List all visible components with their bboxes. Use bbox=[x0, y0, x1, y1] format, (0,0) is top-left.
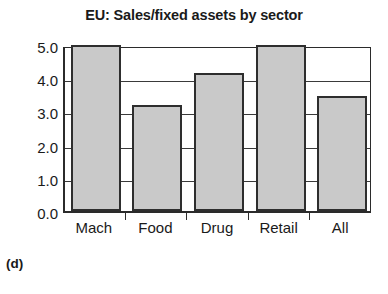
figure-caption: (d) bbox=[6, 256, 23, 271]
bar-series bbox=[65, 48, 370, 211]
x-tick-label: Drug bbox=[186, 219, 248, 236]
bar bbox=[256, 45, 306, 211]
chart-title: EU: Sales/fixed assets by sector bbox=[0, 7, 388, 23]
y-axis-tick-labels: 0.01.02.03.04.05.0 bbox=[0, 47, 58, 213]
x-tick-label: All bbox=[309, 219, 371, 236]
y-tick-label: 4.0 bbox=[2, 73, 58, 88]
x-tick-label: Mach bbox=[63, 219, 125, 236]
bar bbox=[194, 73, 244, 211]
bar bbox=[71, 45, 121, 211]
plot-area bbox=[63, 47, 371, 213]
y-tick-label: 0.0 bbox=[2, 206, 58, 221]
x-axis-tick-labels: MachFoodDrugRetailAll bbox=[63, 219, 371, 243]
x-tick-label: Food bbox=[125, 219, 187, 236]
y-tick-label: 5.0 bbox=[2, 40, 58, 55]
figure-panel: EU: Sales/fixed assets by sector 0.01.02… bbox=[0, 0, 388, 294]
bar bbox=[317, 96, 367, 211]
x-tick-label: Retail bbox=[248, 219, 310, 236]
y-tick-label: 1.0 bbox=[2, 173, 58, 188]
bar bbox=[132, 105, 182, 211]
y-tick-label: 2.0 bbox=[2, 140, 58, 155]
y-tick-label: 3.0 bbox=[2, 106, 58, 121]
